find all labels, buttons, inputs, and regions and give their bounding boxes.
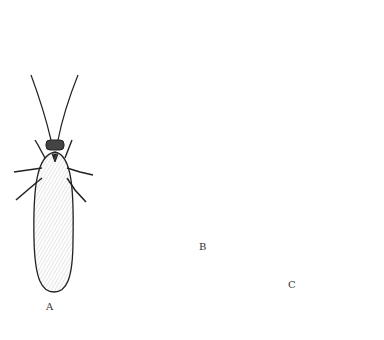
specimen-a-winged-termite [14, 75, 93, 292]
label-a: A [46, 301, 53, 312]
label-b: B [199, 241, 206, 252]
engraving-artwork [0, 0, 384, 340]
label-c: C [288, 279, 296, 290]
illustration-plate: A B C [0, 0, 384, 340]
